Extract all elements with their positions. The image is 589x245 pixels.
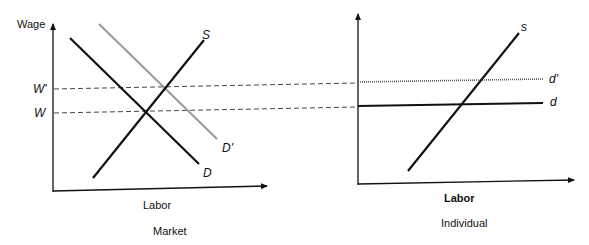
w-prime-dashed-line bbox=[54, 83, 357, 89]
wage-axis-label: Wage bbox=[17, 18, 45, 30]
individual-supply-label: s bbox=[521, 20, 527, 34]
demand-label: D bbox=[203, 166, 212, 180]
supply-label: S bbox=[202, 28, 210, 42]
w-label: W bbox=[34, 106, 47, 120]
w-dashed-line bbox=[54, 107, 357, 113]
market-axes bbox=[53, 24, 267, 192]
market-panel-title: Market bbox=[153, 225, 187, 237]
demand-curve bbox=[70, 38, 199, 164]
labor-market-diagram: Wage W' W S D' D Labor Market s d' d Lab… bbox=[0, 0, 589, 245]
individual-demand-prime-label: d' bbox=[549, 72, 559, 86]
individual-supply-curve bbox=[408, 33, 519, 171]
individual-demand-label: d bbox=[550, 95, 557, 109]
demand-prime-curve bbox=[99, 24, 217, 139]
individual-labor-axis-label: Labor bbox=[444, 192, 475, 204]
demand-prime-label: D' bbox=[222, 141, 234, 155]
market-labor-axis-label: Labor bbox=[143, 199, 171, 211]
individual-demand-prime-line bbox=[358, 79, 543, 82]
individual-panel-title: Individual bbox=[441, 217, 487, 229]
w-prime-label: W' bbox=[33, 82, 47, 96]
individual-demand-line bbox=[358, 103, 543, 106]
